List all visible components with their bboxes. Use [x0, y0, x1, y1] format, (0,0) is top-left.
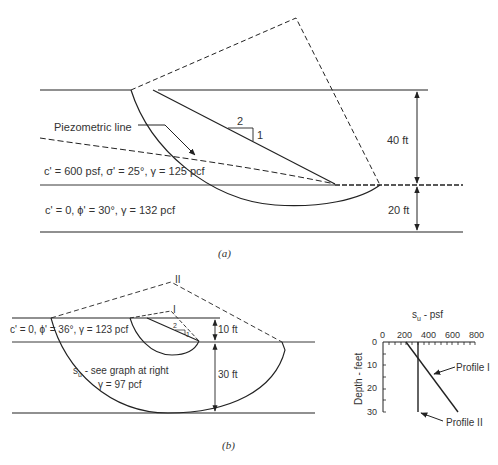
y-tick-20: 20 — [367, 383, 377, 393]
chart-title: su - psf — [412, 309, 443, 322]
figure-b — [12, 282, 315, 413]
su-depth-chart: su - psf 0 200 400 600 800 0 10 20 30 De… — [353, 309, 490, 428]
slope-ratio-h: 2 — [237, 115, 243, 127]
layer-lower-su-label: su - see graph at right — [73, 365, 169, 378]
dim-10ft-label: 10 ft — [218, 324, 238, 335]
x-tick-0: 0 — [380, 330, 385, 340]
profile-II-label: Profile II — [446, 417, 483, 428]
profile-II-leader — [421, 413, 443, 421]
profile-I-line — [406, 342, 458, 412]
circle-radius-dashed — [131, 18, 380, 185]
surface-I-label: I — [173, 304, 176, 315]
slope-ratio-v: 1 — [257, 129, 263, 141]
profile-I-leader — [434, 367, 455, 374]
y-tick-10: 10 — [367, 360, 377, 370]
x-tick-800: 800 — [469, 330, 484, 340]
slope-ratio-v-b: 1 — [186, 331, 190, 338]
dim-20ft-label: 20 ft — [388, 204, 409, 216]
y-tick-30: 30 — [367, 407, 377, 417]
y-tick-0: 0 — [372, 337, 377, 347]
profile-I-label: Profile I — [456, 362, 490, 373]
layer-lower-gamma: γ = 97 pcf — [98, 379, 142, 390]
caption-a: (a) — [218, 247, 231, 260]
piezometric-label: Piezometric line — [54, 121, 132, 133]
layer-upper-properties: c' = 600 psf, σ' = 25°, γ = 125 pcf — [44, 165, 206, 177]
dim-40ft-label: 40 ft — [387, 134, 408, 146]
dim-30ft-label: 30 ft — [218, 369, 238, 380]
y-axis-label: Depth - feet — [353, 353, 364, 405]
slip-circle-arc — [131, 90, 380, 206]
surface-II-label: II — [175, 274, 181, 285]
su-rest: - see graph at right — [82, 365, 169, 376]
x-tick-600: 600 — [445, 330, 460, 340]
slope-stability-figure: Piezometric line 2 1 c' = 600 psf, σ' = … — [0, 0, 498, 465]
layer-upper-properties-b: c' = 0, ϕ' = 36°, γ = 123 pcf — [10, 324, 128, 335]
x-tick-200: 200 — [397, 330, 412, 340]
caption-b: (b) — [222, 439, 235, 452]
slope-ratio-h-b: 2 — [173, 322, 177, 329]
layer-lower-properties: c' = 0, ϕ' = 30°, γ = 132 pcf — [45, 204, 176, 216]
x-tick-400: 400 — [421, 330, 436, 340]
